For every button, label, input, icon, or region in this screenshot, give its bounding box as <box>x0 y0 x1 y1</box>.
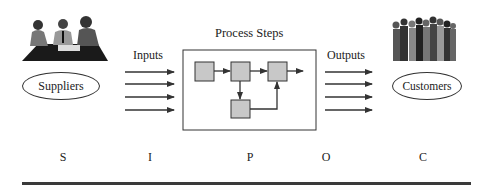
sipoc-letter-c: C <box>419 150 427 165</box>
customers-node: Customers <box>392 72 462 100</box>
outputs-label: Outputs <box>327 48 365 63</box>
process-steps-label: Process Steps <box>215 26 283 41</box>
inputs-label: Inputs <box>133 48 163 63</box>
suppliers-label: Suppliers <box>38 79 83 94</box>
sipoc-letter-o: O <box>322 150 331 165</box>
sipoc-letter-i: I <box>148 150 152 165</box>
customers-label: Customers <box>402 80 451 92</box>
suppliers-node: Suppliers <box>22 72 100 100</box>
sipoc-letter-p: P <box>247 150 254 165</box>
bottom-divider <box>22 182 471 185</box>
sipoc-letter-s: S <box>60 150 67 165</box>
